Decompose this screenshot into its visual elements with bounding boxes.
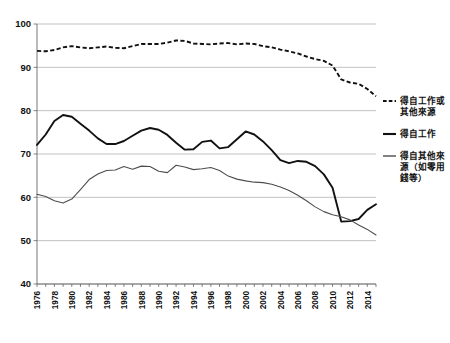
x-tick-label-2006: 2006 [294,291,303,310]
chart-container: 405060708090100 197619781980198219841986… [0,0,450,343]
x-tick-label-1980: 1980 [68,291,77,310]
x-tick-label-2014: 2014 [364,291,373,310]
y-tick-label-50: 50 [20,235,31,246]
x-tick-label-2000: 2000 [242,291,251,310]
x-tick-label-1984: 1984 [103,291,112,310]
x-tick-label-1998: 1998 [224,291,233,310]
x-tick-label-1982: 1982 [85,291,94,310]
y-tick-label-70: 70 [20,148,31,159]
y-tick-label-40: 40 [20,278,31,289]
x-tick-label-2004: 2004 [277,291,286,310]
x-tick-label-1986: 1986 [120,291,129,310]
x-tick-label-1994: 1994 [190,291,199,310]
x-tick-label-1990: 1990 [155,291,164,310]
x-tick-label-2002: 2002 [259,291,268,310]
y-tick-label-80: 80 [20,105,31,116]
x-tick-label-2010: 2010 [329,291,338,310]
x-tick-label-1978: 1978 [51,291,60,310]
y-tick-label-60: 60 [20,192,31,203]
legend-label-2-line-2: 錢等） [400,172,427,183]
x-tick-label-1992: 1992 [172,291,181,310]
y-tick-label-90: 90 [20,62,31,73]
legend-label-0-line-0: 得自工作或 [399,95,445,106]
line-chart: 405060708090100 197619781980198219841986… [0,0,450,343]
legend-label-1-line-0: 得自工作 [399,128,436,139]
legend-label-2-line-1: 源（如零用 [399,161,445,172]
x-tick-label-2012: 2012 [346,291,355,310]
legend-label-2-line-0: 得自其他來 [399,150,445,161]
x-tick-label-1988: 1988 [138,291,147,310]
x-tick-label-1976: 1976 [33,291,42,310]
x-tick-label-1996: 1996 [207,291,216,310]
y-tick-label-100: 100 [15,18,31,29]
legend-label-0-line-1: 其他來源 [400,106,436,117]
x-tick-label-2008: 2008 [311,291,320,310]
